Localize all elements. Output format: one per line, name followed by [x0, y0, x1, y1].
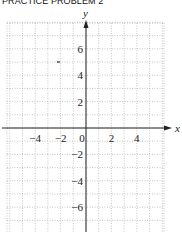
data-points: [57, 61, 60, 63]
data-point: [57, 61, 60, 63]
y-tick-label: 2: [78, 96, 84, 108]
x-axis-label: x: [174, 122, 180, 134]
coordinate-plane: xy −4−2024642−2−4−6: [0, 0, 182, 232]
y-tick-label: −2: [71, 148, 83, 160]
x-tick-label: 2: [109, 132, 115, 144]
y-tick-label: −6: [71, 201, 83, 213]
x-tick-label: −4: [29, 132, 41, 144]
x-axis-arrow-icon: [164, 126, 172, 131]
x-tick-label: 0: [79, 132, 85, 144]
x-tick-label: −2: [55, 132, 67, 144]
y-axis-arrow-icon: [84, 20, 89, 28]
x-tick-label: 4: [134, 132, 140, 144]
y-tick-label: 4: [78, 69, 84, 81]
y-axis-label: y: [82, 7, 88, 19]
axes: xy: [2, 7, 180, 232]
y-tick-label: −4: [71, 175, 83, 187]
y-tick-label: 6: [78, 43, 84, 55]
